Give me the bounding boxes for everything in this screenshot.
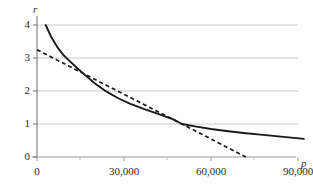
gridlines (37, 25, 298, 124)
series-tangent-line (37, 50, 246, 157)
y-tick-label-3: 3 (14, 52, 30, 63)
y-axis-ticks (33, 25, 37, 157)
y-tick-label-0: 0 (14, 151, 30, 162)
y-tick-label-2: 2 (14, 85, 30, 96)
y-tick-label-1: 1 (14, 118, 30, 129)
series-curve (46, 25, 304, 139)
x-axis-label: p (301, 158, 307, 169)
y-axis-label: r (33, 4, 37, 15)
axes (32, 16, 296, 157)
y-tick-label-4: 4 (14, 19, 30, 30)
x-axis-ticks (37, 157, 298, 161)
x-tick-label-30000: 30,000 (97, 166, 151, 177)
chart-container: 4 3 2 1 0 0 30,000 60,000 90,000 r p (0, 0, 313, 196)
x-tick-label-0: 0 (27, 166, 47, 177)
x-tick-label-60000: 60,000 (184, 166, 238, 177)
